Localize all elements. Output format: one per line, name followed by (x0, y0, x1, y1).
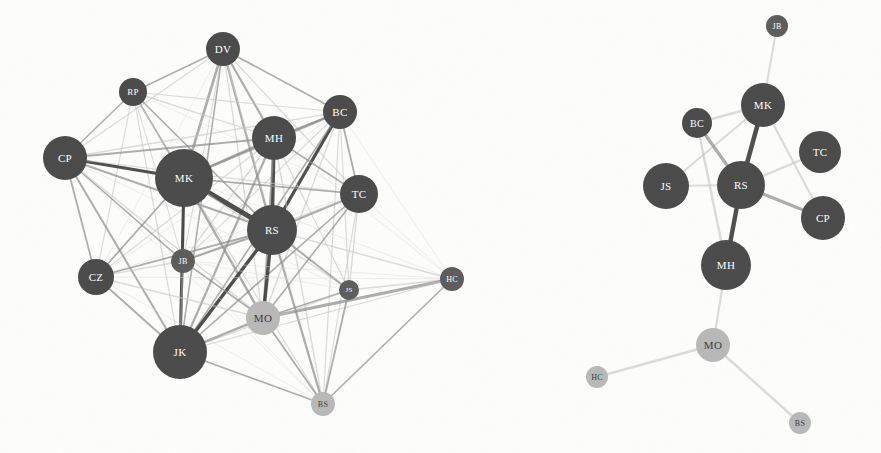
network-node-mh[interactable]: MH (252, 116, 296, 160)
network-canvas: DVRPBCMHCPMKTCRSJBCZHCJSMOJKBS JBMKBCTCJ… (0, 0, 881, 453)
node-circle (155, 149, 213, 207)
network-node-rs[interactable]: RS (717, 161, 765, 209)
node-circle (586, 366, 608, 388)
network-node-cz[interactable]: CZ (78, 259, 114, 295)
node-circle (43, 136, 87, 180)
network-node-mh[interactable]: MH (701, 240, 751, 290)
node-circle (682, 108, 712, 138)
node-circle (78, 259, 114, 295)
network-node-bs[interactable]: BS (311, 392, 335, 416)
network-node-tc[interactable]: TC (799, 131, 841, 173)
figure-background (0, 0, 881, 453)
node-circle (717, 161, 765, 209)
node-circle (741, 83, 785, 127)
network-node-cp[interactable]: CP (43, 136, 87, 180)
network-node-mo[interactable]: MO (246, 301, 280, 335)
network-node-rs[interactable]: RS (247, 205, 297, 255)
network-node-hc[interactable]: HC (586, 366, 608, 388)
node-circle (701, 240, 751, 290)
node-circle (323, 95, 357, 129)
network-figure: DVRPBCMHCPMKTCRSJBCZHCJSMOJKBS JBMKBCTCJ… (0, 0, 881, 453)
node-circle (340, 175, 378, 213)
network-node-mk[interactable]: MK (155, 149, 213, 207)
node-circle (206, 32, 240, 66)
node-circle (247, 205, 297, 255)
node-circle (801, 196, 845, 240)
node-circle (799, 131, 841, 173)
node-circle (643, 163, 689, 209)
network-node-jb[interactable]: JB (171, 249, 195, 273)
network-node-jk[interactable]: JK (153, 325, 207, 379)
network-node-bc[interactable]: BC (682, 108, 712, 138)
network-node-cp[interactable]: CP (801, 196, 845, 240)
network-node-mk[interactable]: MK (741, 83, 785, 127)
node-circle (252, 116, 296, 160)
node-circle (153, 325, 207, 379)
network-node-jb[interactable]: JB (766, 15, 788, 37)
network-node-mo[interactable]: MO (696, 328, 730, 362)
node-circle (440, 267, 464, 291)
node-circle (766, 15, 788, 37)
node-circle (696, 328, 730, 362)
network-node-js[interactable]: JS (643, 163, 689, 209)
node-circle (171, 249, 195, 273)
network-node-dv[interactable]: DV (206, 32, 240, 66)
network-node-bc[interactable]: BC (323, 95, 357, 129)
node-circle (311, 392, 335, 416)
network-node-tc[interactable]: TC (340, 175, 378, 213)
node-circle (339, 280, 359, 300)
network-node-hc[interactable]: HC (440, 267, 464, 291)
network-node-bs[interactable]: BS (789, 412, 811, 434)
node-circle (789, 412, 811, 434)
network-node-js[interactable]: JS (339, 280, 359, 300)
network-node-rp[interactable]: RP (119, 78, 147, 106)
node-circle (246, 301, 280, 335)
node-circle (119, 78, 147, 106)
